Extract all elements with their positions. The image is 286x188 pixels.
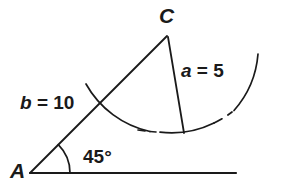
vertex-label-c: C	[159, 5, 174, 26]
swing-arc-solid-bottom	[160, 123, 214, 133]
swing-arc-solid-right	[234, 54, 258, 111]
side-a-segment	[168, 37, 184, 133]
side-b-value: = 10	[32, 92, 75, 113]
side-length-label-b: b = 10	[20, 93, 74, 112]
vertex-label-a: A	[10, 160, 25, 181]
side-a-value: = 5	[192, 60, 224, 81]
side-a-symbol: a	[181, 60, 192, 81]
swing-arc-dash-lower-right	[214, 112, 232, 123]
swing-arc-dash-left-tick	[138, 130, 145, 131]
side-b-symbol: b	[20, 92, 32, 113]
angle-measure-label: 45°	[83, 147, 112, 166]
swing-arc-dash-lower-left	[150, 132, 156, 133]
geometry-diagram: A C b = 10 a = 5 45°	[0, 0, 286, 188]
angle-arc-45	[58, 145, 70, 173]
side-length-label-a: a = 5	[181, 61, 224, 80]
